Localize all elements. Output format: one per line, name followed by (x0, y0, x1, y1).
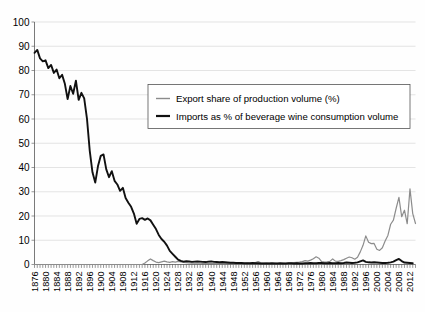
x-tick-label: 2008 (394, 272, 404, 292)
x-tick-label: 1960 (262, 272, 272, 292)
x-tick-label: 1904 (107, 272, 117, 292)
x-axis-tick-labels: 1876188018841888189218961900190419081912… (30, 272, 415, 292)
x-tick-label: 1976 (306, 272, 316, 292)
x-tick-label: 1912 (129, 272, 139, 292)
y-tick-label: 30 (18, 186, 30, 197)
x-tick-label: 1900 (96, 272, 106, 292)
y-tick-label: 0 (24, 259, 30, 270)
series-line-export-share (35, 189, 416, 265)
x-tick-label: 1996 (361, 272, 371, 292)
chart-legend: Export share of production volume (%)Imp… (148, 85, 410, 129)
y-tick-label: 60 (18, 114, 30, 125)
x-tick-label: 1932 (184, 272, 194, 292)
y-tick-label: 10 (18, 235, 30, 246)
x-tick-label: 1964 (273, 272, 283, 292)
gridlines-group (35, 22, 416, 240)
x-tick-label: 1984 (328, 272, 338, 292)
y-tick-label: 40 (18, 162, 30, 173)
x-tick-label: 1940 (207, 272, 217, 292)
y-tick-label: 20 (18, 211, 30, 222)
x-tick-label: 1920 (151, 272, 161, 292)
x-tick-label: 1876 (30, 272, 40, 292)
legend-label: Export share of production volume (%) (176, 93, 340, 104)
x-tick-label: 1880 (41, 272, 51, 292)
line-chart: 0102030405060708090100 18761880188418881… (0, 0, 425, 312)
series-line-imports-share (35, 50, 413, 264)
chart-container: 0102030405060708090100 18761880188418881… (0, 0, 425, 312)
x-tick-label: 1948 (229, 272, 239, 292)
x-tick-label: 1928 (173, 272, 183, 292)
y-tick-label: 50 (18, 138, 30, 149)
legend-box (148, 85, 410, 129)
x-tick-label: 1892 (74, 272, 84, 292)
y-tick-label: 80 (18, 65, 30, 76)
x-tick-label: 1884 (52, 272, 62, 292)
x-tick-label: 2004 (383, 272, 393, 292)
x-tick-label: 1944 (218, 272, 228, 292)
x-tick-label: 1908 (118, 272, 128, 292)
x-tick-label: 1888 (63, 272, 73, 292)
series-group (35, 50, 416, 265)
x-tick-label: 1980 (317, 272, 327, 292)
x-tick-label: 2000 (372, 272, 382, 292)
x-tick-label: 1952 (240, 272, 250, 292)
legend-label: Imports as % of beverage wine consumptio… (176, 111, 398, 122)
x-tick-label: 1968 (284, 272, 294, 292)
x-tick-label: 1936 (195, 272, 205, 292)
x-tick-label: 1896 (85, 272, 95, 292)
x-tick-label: 2012 (405, 272, 415, 292)
y-axis-tick-labels: 0102030405060708090100 (13, 17, 30, 271)
y-tick-label: 100 (13, 17, 30, 28)
x-tick-label: 1988 (339, 272, 349, 292)
x-tick-label: 1992 (350, 272, 360, 292)
x-tick-label: 1956 (251, 272, 261, 292)
y-tick-label: 90 (18, 41, 30, 52)
x-tick-label: 1972 (295, 272, 305, 292)
x-tick-label: 1924 (162, 272, 172, 292)
y-tick-label: 70 (18, 89, 30, 100)
x-tick-label: 1916 (140, 272, 150, 292)
